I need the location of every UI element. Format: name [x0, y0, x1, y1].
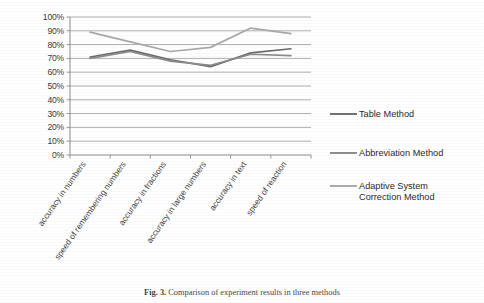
legend-label-line2: Correction Method [359, 192, 435, 202]
y-tick-label: 0% [52, 150, 65, 160]
y-tick-label: 30% [47, 109, 64, 119]
y-tick-label: 10% [47, 136, 64, 146]
x-category-label: speed of remembering numbers [52, 159, 128, 261]
y-tick-label: 70% [47, 53, 64, 63]
figure-caption: Fig. 3. Comparison of experiment results… [0, 286, 484, 303]
x-axis-category-labels: accuracy in numbersspeed of remembering … [36, 159, 289, 262]
legend-label: Adaptive System [359, 181, 428, 191]
x-axis-tick-marks [70, 155, 311, 159]
y-tick-label: 50% [47, 81, 64, 91]
y-axis-tick-marks [67, 17, 71, 155]
caption-text: Comparison of experiment results in thre… [168, 288, 340, 297]
y-tick-label: 80% [47, 40, 64, 50]
chart-legend: Table MethodAbbreviation MethodAdaptive … [330, 109, 443, 202]
y-tick-label: 20% [47, 122, 64, 132]
legend-label: Table Method [359, 109, 414, 119]
data-series-group [90, 28, 291, 67]
figure-container: 100%90%80%70%60%50%40%30%20%10%0% accura… [0, 0, 484, 303]
y-tick-label: 40% [47, 95, 64, 105]
figure-number: Fig. 3. [144, 288, 166, 297]
y-tick-label: 100% [43, 12, 65, 22]
legend-label: Abbreviation Method [359, 148, 443, 158]
y-tick-label: 90% [47, 26, 64, 36]
x-category-label: speed of reaction [244, 159, 289, 217]
y-tick-label: 60% [47, 67, 64, 77]
x-category-label: accuracy in text [207, 159, 249, 213]
y-axis-tick-labels: 100%90%80%70%60%50%40%30%20%10%0% [43, 12, 65, 160]
line-chart: 100%90%80%70%60%50%40%30%20%10%0% accura… [0, 0, 484, 303]
series-line [90, 28, 291, 51]
